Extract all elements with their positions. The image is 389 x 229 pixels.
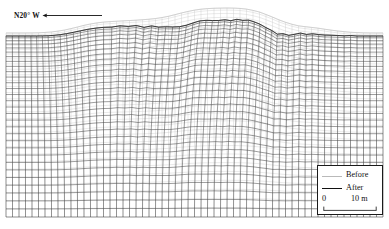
legend-swatch-after-icon	[322, 185, 342, 191]
scale-bar-labels: 0 10 m	[322, 195, 380, 204]
legend-label-before: Before	[346, 171, 368, 179]
scale-bar: 0 10 m	[322, 195, 380, 213]
arrow-left-icon	[42, 11, 104, 20]
scale-bar-label-max: 10 m	[351, 195, 368, 203]
figure-root: N20° W Before After 0 10 m	[0, 0, 389, 229]
legend-entry-before: Before	[318, 170, 382, 182]
direction-arrow-icon	[42, 11, 104, 20]
scale-bar-ruler-icon	[323, 206, 377, 211]
section-direction-indicator: N20° W	[14, 9, 104, 22]
section-direction-label: N20° W	[14, 12, 40, 19]
scale-bar-label-min: 0	[322, 195, 326, 203]
legend-entry-after: After	[318, 182, 382, 194]
legend-swatch-before-icon	[322, 173, 342, 179]
legend-label-after: After	[346, 184, 363, 192]
legend: Before After 0 10 m	[317, 165, 383, 215]
